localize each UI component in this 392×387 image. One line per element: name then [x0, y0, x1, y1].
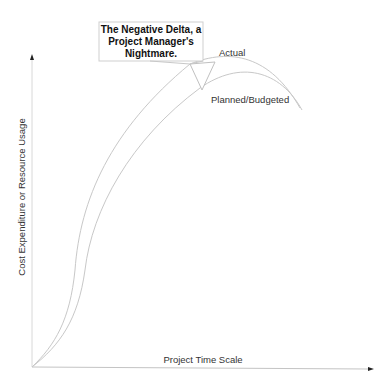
callout-line-3: Nightmare. [125, 48, 177, 59]
negative-delta-triangle [190, 62, 215, 90]
y-axis-arrowhead-icon [30, 54, 34, 60]
planned-curve [32, 72, 302, 367]
callout-line-1: The Negative Delta, a [101, 24, 202, 35]
x-axis-line [32, 367, 368, 369]
x-axis-label: Project Time Scale [163, 354, 242, 365]
x-axis-arrowhead-icon [368, 367, 374, 371]
diagram-canvas: The Negative Delta, a Project Manager's … [0, 0, 392, 387]
actual-label: Actual [219, 47, 245, 58]
callout-line-2: Project Manager's [108, 36, 194, 47]
planned-label: Planned/Budgeted [211, 94, 289, 105]
y-axis-label: Cost Expenditure or Resource Usage [16, 118, 27, 275]
